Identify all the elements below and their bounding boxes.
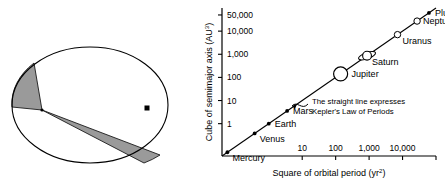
y-axis-title-tail: ) <box>204 23 214 26</box>
marker-dot-icon <box>253 132 257 136</box>
data-point-label-mercury: Mercury <box>232 153 265 163</box>
data-point-venus: Venus <box>253 132 285 145</box>
kepler-law-of-periods-chart: 1101001,00010,00050,000 101001,00010,000… <box>200 0 445 185</box>
data-point-label-saturn: Saturn <box>372 57 399 67</box>
x-tick-label: 10 <box>297 143 307 153</box>
sweep-origin-point <box>40 108 43 111</box>
marker-open-circle-icon <box>394 31 400 37</box>
y-tick-label: 50,000 <box>227 10 253 20</box>
y-axis-title-base: Cube of semimajor axis (AU <box>204 29 214 141</box>
data-point-label-venus: Venus <box>260 134 286 144</box>
y-axis-title: Cube of semimajor axis (AU3) <box>204 23 215 141</box>
x-axis-title-base: Square of orbital period (yr <box>273 168 380 178</box>
y-axis-ticks: 1101001,00010,00050,000 <box>218 10 253 129</box>
marker-dot-icon <box>267 122 271 126</box>
data-point-label-jupiter: Jupiter <box>352 69 379 79</box>
marker-jupiter-circle-icon <box>334 67 348 81</box>
data-point-jupiter: Jupiter <box>334 67 379 81</box>
y-tick-label: 1,000 <box>227 49 249 59</box>
marker-dot-icon <box>285 109 289 113</box>
x-tick-label: 10,000 <box>390 143 416 153</box>
y-tick-label: 1 <box>227 119 232 129</box>
marker-open-circle-icon <box>414 18 420 24</box>
data-point-label-earth: Earth <box>275 119 297 129</box>
x-axis-title-tail: ) <box>382 168 385 178</box>
data-point-earth: Earth <box>267 119 296 129</box>
data-point-label-pluto: Pluto <box>435 8 445 18</box>
x-tick-label: 100 <box>329 143 343 153</box>
marker-saturn-body-icon <box>363 51 372 60</box>
data-point-label-mars: Mars <box>293 106 313 116</box>
data-point-label-uranus: Uranus <box>402 36 432 46</box>
equal-areas-svg <box>0 0 200 185</box>
y-tick-label: 10 <box>227 96 237 106</box>
swept-area-sector-lower <box>42 110 160 163</box>
law-of-periods-chart-panel: 1101001,00010,00050,000 101001,00010,000… <box>200 0 445 185</box>
x-axis-title: Square of orbital period (yr2) <box>273 168 386 179</box>
y-tick-label: 100 <box>227 72 241 82</box>
kepler-laws-figure: 1101001,00010,00050,000 101001,00010,000… <box>0 0 445 185</box>
data-point-mercury: Mercury <box>225 150 265 163</box>
equal-areas-diagram-panel <box>0 0 200 185</box>
data-point-mars: Mars <box>285 106 313 116</box>
annotation-line-2: Kepler's Law of Periods <box>312 107 394 116</box>
data-point-saturn: Saturn <box>358 50 399 67</box>
marker-dot-icon <box>225 150 229 154</box>
data-point-uranus: Uranus <box>394 31 432 45</box>
marker-dot-icon <box>427 11 431 15</box>
focus-dot-marker <box>145 106 150 111</box>
y-tick-label: 10,000 <box>227 26 253 36</box>
annotation-line-1: The straight line expresses <box>312 97 405 106</box>
x-axis-ticks: 101001,00010,000 <box>297 143 436 160</box>
planet-data-points: MercuryVenusEarthMarsJupiterSaturnUranus… <box>225 8 445 163</box>
x-tick-label: 1,000 <box>358 143 380 153</box>
